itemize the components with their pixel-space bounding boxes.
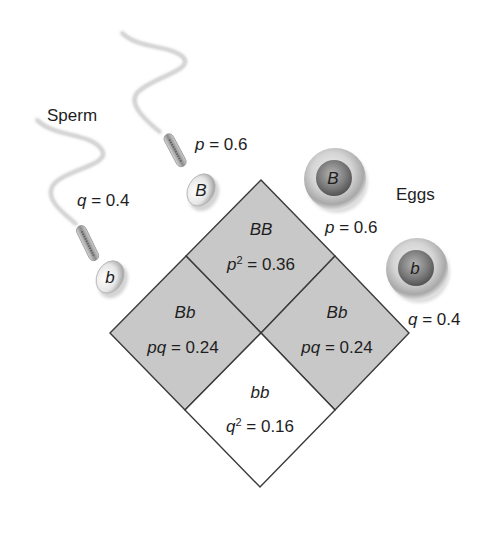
eggs-title: Eggs: [396, 185, 435, 204]
cell-Bb-left-genotype: Bb: [175, 303, 196, 322]
egg-b-frequency: q = 0.4: [408, 310, 460, 329]
sperm-title: Sperm: [47, 106, 97, 125]
cell-Bb-right-genotype: Bb: [327, 303, 348, 322]
cell-BB-frequency: p2 = 0.36: [226, 254, 295, 274]
punnett-diagram: B b Sperm p = 0.6 q = 0.4 B b Eggs p = 0…: [0, 0, 493, 537]
egg-B-frequency: p = 0.6: [324, 218, 377, 237]
cell-bb-genotype: bb: [251, 383, 270, 402]
sperm-B-frequency: p = 0.6: [194, 135, 247, 154]
cell-Bb-right-frequency: pq = 0.24: [300, 338, 372, 357]
sperm-midpiece: [162, 132, 188, 168]
sperm-B: B: [122, 33, 225, 217]
cell-BB-genotype: BB: [250, 220, 273, 239]
sperm-b: b: [37, 120, 134, 303]
cell-Bb-left-frequency: pq = 0.24: [146, 338, 218, 357]
sperm-allele-label: B: [195, 181, 206, 200]
egg-allele-label: B: [327, 169, 338, 188]
egg-b: b: [386, 238, 450, 303]
egg-allele-label: b: [410, 259, 419, 278]
egg-B: B: [304, 148, 368, 213]
sperm-b-frequency: q = 0.4: [77, 191, 129, 210]
sperm-midpiece: [75, 224, 101, 263]
sperm-allele-label: b: [105, 268, 114, 287]
